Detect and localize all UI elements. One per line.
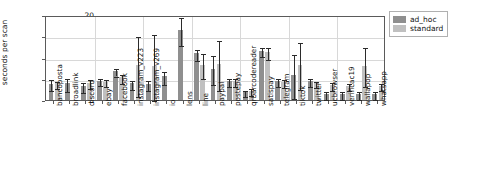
error-bar-cap (308, 87, 313, 88)
error-bar-cap (146, 81, 151, 82)
error-bar-cap (65, 79, 70, 80)
x-tick-label-satispay: satispay (267, 76, 274, 106)
x-tick-mark (280, 101, 281, 104)
y-tick-mark (42, 101, 45, 102)
error-bar-cap (266, 48, 271, 49)
error-bar (132, 81, 133, 90)
legend-item-ad-hoc: ad_hoc (393, 16, 443, 24)
error-bar (164, 72, 165, 85)
x-tick-label-instagram_v223: instagram_v223 (137, 48, 144, 106)
error-bar (213, 56, 214, 86)
error-bar (148, 81, 149, 90)
error-bar (262, 48, 263, 57)
error-bar-cap (98, 86, 103, 87)
x-tick-mark (361, 101, 362, 104)
error-bar (359, 92, 360, 100)
error-bar-cap (211, 56, 216, 57)
x-tick-mark (199, 101, 200, 104)
y-axis-title-text: seconds per scan (1, 19, 10, 84)
error-bar (294, 55, 295, 99)
x-tick-mark (134, 101, 135, 104)
legend-label-ad-hoc: ad_hoc (410, 16, 437, 24)
error-bar (106, 80, 107, 87)
x-tick-label-postepay: postepay (234, 73, 241, 106)
error-bar-cap (243, 97, 248, 98)
error-bar-cap (340, 92, 345, 93)
error-bar-cap (65, 92, 70, 93)
x-tick-mark (264, 101, 265, 104)
error-bar-cap (81, 93, 86, 94)
error-bar-cap (373, 92, 378, 93)
gridline-vertical (192, 17, 193, 100)
x-tick-label-paypal: paypal (218, 82, 225, 106)
error-bar (229, 79, 230, 87)
error-bar (203, 54, 204, 80)
y-axis-title: seconds per scan (0, 4, 11, 100)
error-bar (67, 79, 68, 92)
x-tick-label-telegram: telegram (283, 73, 290, 106)
error-bar (181, 18, 182, 46)
legend-item-standard: standard (393, 25, 443, 33)
error-bar (245, 91, 246, 98)
error-bar-cap (260, 48, 265, 49)
error-bar-cap (308, 79, 313, 80)
error-bar-cap (201, 54, 206, 55)
x-tick-mark (312, 101, 313, 104)
x-tick-mark (345, 101, 346, 104)
x-tick-label-lens: lens (186, 91, 193, 106)
x-tick-label-tiktok: tiktok (299, 86, 306, 106)
x-tick-label-wallapop: wallapop (364, 74, 371, 106)
error-bar-cap (260, 57, 265, 58)
error-bar (116, 69, 117, 77)
error-bar (375, 92, 376, 100)
x-tick-label-whatsapp: whatsapp (380, 71, 387, 106)
x-tick-label-ucbrowser: ucbrowser (331, 69, 338, 106)
legend: ad_hoc standard (389, 11, 448, 37)
x-tick-label-facebook: facebook (121, 73, 128, 106)
error-bar-cap (179, 18, 184, 19)
x-tick-label-broadlink: broadlink (72, 73, 79, 106)
error-bar (326, 92, 327, 100)
error-bar-cap (81, 83, 86, 84)
x-tick-label-bancoposta: bancoposta (56, 64, 63, 106)
error-bar-cap (227, 79, 232, 80)
gridline-horizontal (46, 60, 384, 61)
error-bar-cap (266, 60, 271, 61)
x-tick-mark (215, 101, 216, 104)
error-bar-cap (146, 91, 151, 92)
gridline-horizontal (46, 38, 384, 39)
error-bar (278, 79, 279, 87)
error-bar-cap (217, 41, 222, 42)
error-bar-cap (152, 35, 157, 36)
error-bar-cap (292, 55, 297, 56)
error-bar-cap (363, 48, 368, 49)
x-tick-label-twitter: twitter (315, 82, 322, 106)
error-bar-cap (162, 85, 167, 86)
error-bar (51, 80, 52, 91)
error-bar (197, 50, 198, 61)
error-bar-cap (49, 80, 54, 81)
legend-label-standard: standard (410, 25, 443, 33)
error-bar-cap (276, 79, 281, 80)
error-bar-cap (104, 80, 109, 81)
error-bar-cap (195, 61, 200, 62)
error-bar-cap (114, 69, 119, 70)
x-tick-label-ebay: ebay (105, 88, 112, 106)
legend-swatch-standard (393, 25, 406, 32)
error-bar-cap (357, 92, 362, 93)
error-bar-cap (298, 43, 303, 44)
x-tick-mark (183, 101, 184, 104)
error-bar-cap (179, 46, 184, 47)
bar-chart-figure: seconds per scan 05101520 bancopostabroa… (0, 0, 477, 182)
legend-swatch-ad-hoc (393, 16, 406, 23)
error-bar-cap (324, 92, 329, 93)
x-tick-label-qrbarcodereader: qrbarcodereader (250, 46, 257, 106)
error-bar (268, 48, 269, 60)
x-tick-label-io: io (169, 100, 176, 106)
error-bar-cap (227, 87, 232, 88)
error-bar-cap (130, 90, 135, 91)
error-bar (83, 83, 84, 92)
error-bar-cap (201, 79, 206, 80)
error-bar-cap (243, 91, 248, 92)
error-bar-cap (114, 77, 119, 78)
